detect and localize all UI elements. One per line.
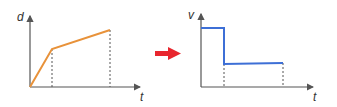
distance-line <box>30 30 110 87</box>
velocity-line <box>201 28 283 64</box>
right-arrow-icon <box>155 47 181 60</box>
y-axis-label: v <box>188 8 195 22</box>
velocity-time-graph: v t <box>188 8 317 104</box>
x-axis-label: t <box>140 90 144 104</box>
distance-time-graph: d t <box>17 10 144 104</box>
y-axis-label: d <box>17 10 24 24</box>
diagram-canvas: d t v t <box>0 0 337 107</box>
x-axis-label: t <box>313 90 317 104</box>
